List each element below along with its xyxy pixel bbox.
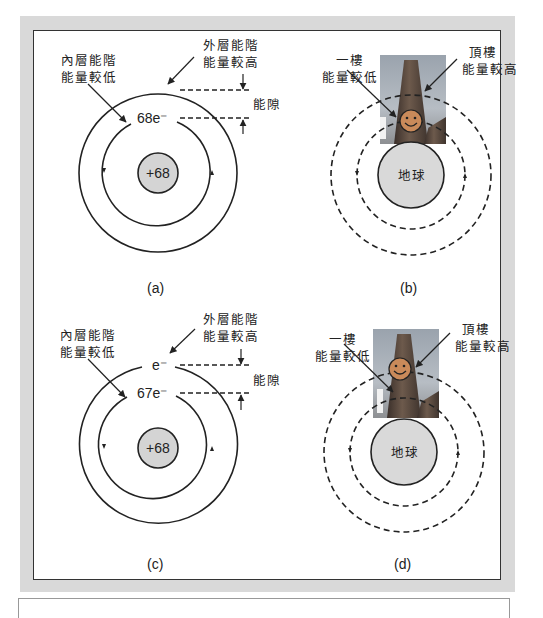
panel-d-outer-label-line2: 能量較高: [455, 338, 511, 355]
panel-c-nucleus-charge: +68: [146, 440, 170, 456]
panel-d-inner-label-line2: 能量較低: [303, 348, 383, 365]
panel-d-caption: (d): [394, 556, 411, 572]
panel-a-outer-label-line1: 外層能階: [203, 37, 259, 54]
panel-d-earth-label: 地球: [391, 444, 419, 461]
panel-a-gap-label: 能隙: [253, 96, 281, 113]
panel-b-outer-label-line1: 頂樓: [453, 44, 513, 61]
panel-c-outer-label-line1: 外層能階: [203, 311, 259, 328]
panel-a-inner-label-line1: 內層能階: [61, 52, 117, 69]
panel-a-outer-label-line2: 能量較高: [203, 54, 259, 71]
panel-c-outer-label-line2: 能量較高: [203, 328, 259, 345]
smiley-icon: [400, 110, 422, 132]
panel-b-caption: (b): [400, 280, 417, 296]
panel-b-analogy: [331, 59, 491, 255]
panel-a-caption: (a): [147, 280, 164, 296]
panel-b-inner-label-line2: 能量較低: [310, 69, 390, 86]
panel-d-inner-label-line1: 一樓: [303, 331, 383, 348]
panel-b-inner-label-line1: 一樓: [310, 52, 390, 69]
panel-a-inner-label-line2: 能量較低: [61, 69, 117, 86]
panel-b-earth-label: 地球: [398, 167, 426, 184]
panel-c-outer-electron: e⁻: [152, 357, 167, 373]
panel-c-caption: (c): [147, 556, 163, 572]
panel-c-inner-electron: 67e⁻: [137, 385, 167, 401]
panel-c-inner-label-line1: 內層能階: [60, 327, 116, 344]
panel-a-inner-electron: 68e⁻: [137, 110, 167, 126]
panel-a-atom: [79, 57, 250, 252]
panel-d-outer-label-line1: 頂樓: [446, 321, 506, 338]
panel-c-inner-label-line2: 能量較低: [60, 344, 116, 361]
panel-b-outer-label-line2: 能量較高: [462, 61, 518, 78]
panel-c-gap-label: 能隙: [253, 372, 281, 389]
panel-a-nucleus-charge: +68: [146, 165, 170, 181]
smiley-icon: [389, 358, 411, 380]
